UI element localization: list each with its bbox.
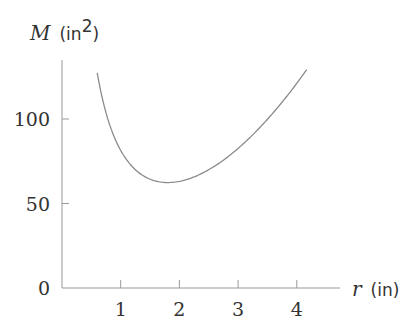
- y-tick-label: 50: [26, 193, 50, 215]
- y-axis-title: M (in2): [29, 16, 99, 45]
- x-tick-label: 3: [232, 298, 244, 320]
- x-axis-title: r (in): [352, 277, 399, 301]
- x-tick-label: 1: [115, 298, 127, 320]
- x-tick-label: 2: [173, 298, 185, 320]
- data-curve: [97, 70, 307, 183]
- x-ticks: 1234: [115, 280, 303, 320]
- chart: 050100 1234 M (in2) r (in): [0, 0, 403, 332]
- y-tick-label: 0: [38, 277, 50, 299]
- y-ticks: 050100: [14, 108, 69, 299]
- x-tick-label: 4: [291, 298, 303, 320]
- y-tick-label: 100: [14, 108, 50, 130]
